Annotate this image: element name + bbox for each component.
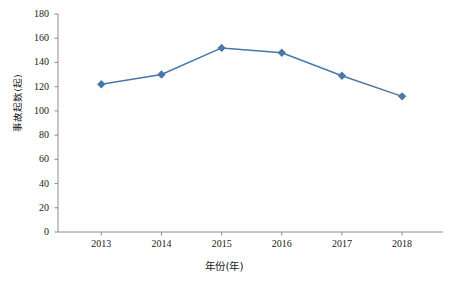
series-line	[101, 48, 402, 96]
y-axis-title: 事故起数(起)	[10, 48, 24, 158]
y-tick-label: 20	[19, 203, 49, 213]
data-point-markers	[97, 44, 406, 101]
data-point-marker	[278, 49, 286, 57]
x-tick-label: 2015	[192, 239, 252, 249]
y-axis-tick-marks	[55, 14, 59, 232]
y-tick-label: 40	[19, 179, 49, 189]
x-axis-title: 年份(年)	[0, 258, 449, 273]
x-tick-label: 2016	[252, 239, 312, 249]
line-chart: 020406080100120140160180 201320142015201…	[0, 0, 449, 283]
chart-axes	[58, 14, 443, 232]
y-tick-label: 0	[19, 227, 49, 237]
x-tick-label: 2013	[71, 239, 131, 249]
x-axis-tick-marks	[101, 232, 402, 236]
x-tick-label: 2018	[372, 239, 432, 249]
data-point-marker	[338, 72, 346, 80]
data-point-marker	[398, 92, 406, 100]
y-tick-label: 160	[19, 33, 49, 43]
data-series-line	[101, 48, 402, 96]
x-tick-label: 2014	[131, 239, 191, 249]
x-tick-label: 2017	[312, 239, 372, 249]
y-tick-label: 180	[19, 9, 49, 19]
data-point-marker	[97, 80, 105, 88]
data-point-marker	[157, 70, 165, 78]
data-point-marker	[217, 44, 225, 52]
